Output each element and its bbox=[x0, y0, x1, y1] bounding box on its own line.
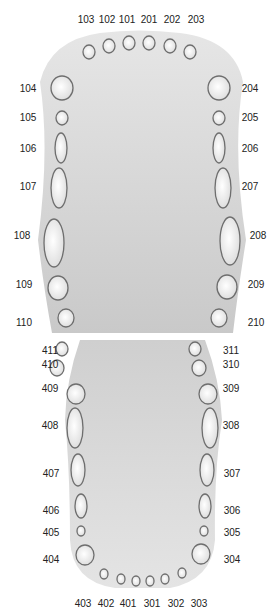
tooth-108 bbox=[44, 219, 64, 267]
tooth-101 bbox=[123, 36, 135, 50]
tooth-label-209: 209 bbox=[248, 280, 265, 290]
tooth-311 bbox=[189, 342, 201, 356]
tooth-label-311: 311 bbox=[223, 346, 239, 356]
tooth-404 bbox=[76, 545, 94, 565]
tooth-210 bbox=[211, 309, 227, 327]
tooth-310 bbox=[192, 360, 206, 376]
tooth-302 bbox=[161, 574, 169, 584]
tooth-label-102: 102 bbox=[99, 15, 116, 25]
tooth-103 bbox=[83, 45, 95, 59]
tooth-label-310: 310 bbox=[223, 360, 240, 370]
tooth-label-110: 110 bbox=[16, 318, 32, 328]
tooth-301 bbox=[146, 576, 154, 586]
tooth-201 bbox=[143, 36, 155, 50]
tooth-207 bbox=[215, 168, 231, 208]
tooth-204 bbox=[208, 76, 230, 100]
tooth-408 bbox=[67, 408, 83, 448]
tooth-406 bbox=[75, 494, 87, 518]
tooth-label-107: 107 bbox=[20, 182, 37, 192]
tooth-label-204: 204 bbox=[242, 84, 259, 94]
tooth-label-408: 408 bbox=[42, 421, 59, 431]
tooth-109 bbox=[48, 276, 68, 300]
tooth-107 bbox=[51, 168, 67, 208]
tooth-307 bbox=[200, 454, 214, 486]
tooth-label-402: 402 bbox=[98, 599, 115, 609]
tooth-label-202: 202 bbox=[164, 15, 181, 25]
tooth-label-410: 410 bbox=[42, 360, 59, 370]
tooth-label-104: 104 bbox=[20, 84, 37, 94]
tooth-409 bbox=[67, 384, 85, 404]
tooth-402 bbox=[117, 574, 125, 584]
tooth-label-106: 106 bbox=[20, 144, 37, 154]
tooth-label-103: 103 bbox=[78, 15, 95, 25]
tooth-202 bbox=[164, 39, 176, 53]
tooth-label-308: 308 bbox=[223, 421, 240, 431]
tooth-203 bbox=[184, 45, 196, 59]
tooth-label-203: 203 bbox=[188, 15, 205, 25]
tooth-label-207: 207 bbox=[242, 182, 259, 192]
tooth-label-301: 301 bbox=[144, 599, 161, 609]
tooth-label-403: 403 bbox=[75, 599, 92, 609]
tooth-label-109: 109 bbox=[16, 280, 33, 290]
tooth-label-411: 411 bbox=[42, 346, 58, 356]
tooth-206 bbox=[213, 133, 225, 163]
tooth-label-108: 108 bbox=[14, 231, 31, 241]
tooth-label-407: 407 bbox=[43, 469, 60, 479]
tooth-308 bbox=[202, 408, 218, 448]
tooth-label-405: 405 bbox=[43, 528, 60, 538]
tooth-102 bbox=[103, 39, 115, 53]
tooth-label-306: 306 bbox=[224, 506, 241, 516]
tooth-208 bbox=[220, 217, 240, 265]
tooth-label-101: 101 bbox=[119, 15, 136, 25]
tooth-label-303: 303 bbox=[191, 599, 208, 609]
tooth-401 bbox=[132, 576, 140, 586]
tooth-306 bbox=[199, 494, 211, 518]
tooth-label-406: 406 bbox=[43, 506, 60, 516]
tooth-305 bbox=[200, 526, 208, 536]
tooth-405 bbox=[77, 526, 85, 536]
tooth-label-208: 208 bbox=[250, 231, 267, 241]
tooth-label-305: 305 bbox=[224, 528, 241, 538]
tooth-407 bbox=[71, 454, 85, 486]
tooth-label-307: 307 bbox=[224, 469, 241, 479]
tooth-304 bbox=[192, 544, 210, 564]
tooth-303 bbox=[178, 568, 186, 578]
tooth-309 bbox=[199, 384, 217, 404]
tooth-403 bbox=[100, 569, 108, 579]
tooth-label-404: 404 bbox=[43, 555, 60, 565]
tooth-205 bbox=[213, 111, 225, 125]
tooth-209 bbox=[217, 275, 237, 299]
tooth-label-309: 309 bbox=[223, 384, 240, 394]
tooth-label-302: 302 bbox=[168, 599, 185, 609]
tooth-110 bbox=[58, 309, 74, 327]
tooth-label-401: 401 bbox=[120, 599, 137, 609]
tooth-label-105: 105 bbox=[20, 113, 37, 123]
tooth-label-206: 206 bbox=[242, 144, 259, 154]
tooth-label-210: 210 bbox=[248, 318, 265, 328]
tooth-104 bbox=[51, 76, 73, 100]
tooth-label-409: 409 bbox=[42, 384, 59, 394]
tooth-label-304: 304 bbox=[224, 555, 241, 565]
dental-chart bbox=[0, 0, 278, 611]
tooth-label-201: 201 bbox=[141, 15, 158, 25]
tooth-label-205: 205 bbox=[242, 113, 259, 123]
tooth-105 bbox=[56, 111, 68, 125]
tooth-106 bbox=[55, 133, 67, 163]
